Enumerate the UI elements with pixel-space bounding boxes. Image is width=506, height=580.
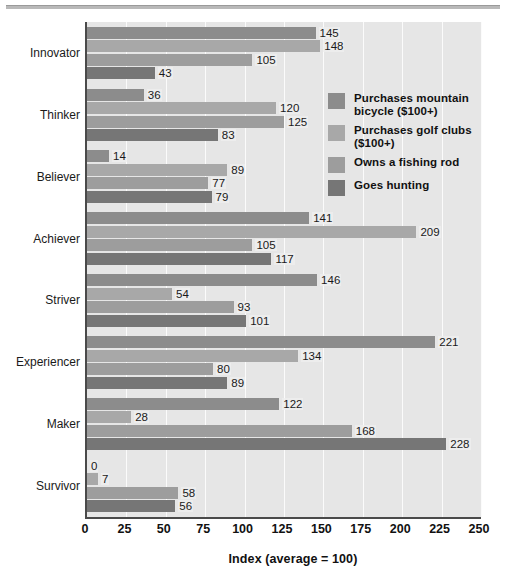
bar: [87, 27, 316, 39]
category-label: Maker: [0, 417, 80, 431]
index-bar-chart: InnovatorThinkerBelieverAchieverStriverE…: [0, 0, 506, 580]
legend-item[interactable]: Purchases mountain bicycle ($100+): [328, 92, 498, 118]
bar-value-label: 54: [175, 288, 190, 300]
legend-swatch-fishing-rod: [328, 157, 345, 173]
bar: [87, 288, 172, 300]
bar: [87, 315, 246, 327]
legend-item-label: Goes hunting: [354, 179, 429, 192]
category-label: Striver: [0, 293, 80, 307]
x-tick-label: 0: [82, 522, 89, 536]
bar: [87, 425, 352, 437]
x-tick-label: 100: [232, 522, 253, 536]
bar-value-label: 56: [178, 500, 193, 512]
bar: [87, 226, 416, 238]
bar-value-label: 77: [211, 177, 226, 189]
bar: [87, 411, 131, 423]
x-axis-title-text: Index (average = 100): [229, 552, 358, 566]
bar-value-label: 228: [449, 438, 470, 450]
bar: [87, 239, 252, 251]
x-tick-label: 125: [272, 522, 293, 536]
bar-value-label: 105: [255, 54, 276, 66]
bar: [87, 336, 435, 348]
legend-swatch-goes-hunting: [328, 180, 345, 196]
bar-value-label: 209: [419, 226, 440, 238]
category-label: Survivor: [0, 479, 80, 493]
bar-value-label: 7: [101, 473, 109, 485]
bar: [87, 350, 298, 362]
bar: [87, 438, 446, 450]
bar: [87, 177, 208, 189]
x-tick-label: 200: [390, 522, 411, 536]
category-label: Thinker: [0, 108, 80, 122]
legend-item-label: Owns a fishing rod: [354, 156, 459, 169]
bar-value-label: 79: [215, 191, 230, 203]
category-label: Believer: [0, 170, 80, 184]
bar: [87, 54, 252, 66]
bar-value-label: 28: [134, 411, 149, 423]
bar-value-label: 80: [216, 363, 231, 375]
bar: [87, 487, 178, 499]
bar: [87, 274, 317, 286]
bar-value-label: 122: [282, 398, 303, 410]
bar: [87, 116, 284, 128]
bar-value-label: 89: [230, 377, 245, 389]
category-label: Achiever: [0, 232, 80, 246]
x-tick-label: 225: [429, 522, 450, 536]
bar-value-label: 83: [221, 129, 236, 141]
bar: [87, 67, 155, 79]
bar: [87, 212, 309, 224]
bar: [87, 377, 227, 389]
category-axis-labels: InnovatorThinkerBelieverAchieverStriverE…: [0, 22, 80, 517]
bar-value-label: 134: [301, 350, 322, 362]
bar-value-label: 0: [90, 460, 98, 472]
bar: [87, 129, 218, 141]
legend-item[interactable]: Goes hunting: [328, 179, 498, 196]
bar-value-label: 93: [237, 301, 252, 313]
category-label: Experiencer: [0, 355, 80, 369]
x-axis-line: [85, 517, 481, 519]
bar: [87, 40, 320, 52]
bar-value-label: 221: [438, 336, 459, 348]
x-tick-label: 250: [469, 522, 490, 536]
legend-swatch-golf-clubs: [328, 125, 345, 141]
legend-item-label: Purchases mountain bicycle ($100+): [354, 92, 498, 118]
chart-legend: Purchases mountain bicycle ($100+)Purcha…: [328, 92, 498, 202]
bar: [87, 363, 213, 375]
bar-value-label: 58: [181, 487, 196, 499]
bar-value-label: 145: [319, 27, 340, 39]
bar-value-label: 148: [323, 40, 344, 52]
bar: [87, 398, 279, 410]
bar: [87, 102, 276, 114]
bar: [87, 253, 271, 265]
legend-swatch-mountain-bicycle: [328, 93, 345, 109]
bar: [87, 301, 234, 313]
legend-item-label: Purchases golf clubs ($100+): [354, 124, 498, 150]
x-tick-label: 75: [196, 522, 210, 536]
bar: [87, 89, 144, 101]
category-label: Innovator: [0, 46, 80, 60]
legend-item[interactable]: Purchases golf clubs ($100+): [328, 124, 498, 150]
bar: [87, 500, 175, 512]
bar-value-label: 146: [320, 274, 341, 286]
bar-value-label: 89: [230, 164, 245, 176]
top-divider-rule: [6, 5, 500, 9]
x-tick-label: 50: [157, 522, 171, 536]
bar: [87, 150, 109, 162]
x-tick-label: 25: [117, 522, 131, 536]
bar-value-label: 105: [255, 239, 276, 251]
bar-value-label: 43: [158, 67, 173, 79]
bar: [87, 164, 227, 176]
bar: [87, 473, 98, 485]
bar-value-label: 14: [112, 150, 127, 162]
legend-item[interactable]: Owns a fishing rod: [328, 156, 498, 173]
x-tick-label: 175: [350, 522, 371, 536]
bar-value-label: 101: [249, 315, 270, 327]
bar-value-label: 117: [274, 253, 294, 265]
bar-value-label: 125: [287, 116, 308, 128]
bar: [87, 191, 212, 203]
x-axis-title: Index (average = 100): [0, 552, 506, 566]
bar-value-label: 168: [355, 425, 376, 437]
bar-value-label: 141: [312, 212, 333, 224]
bar-value-label: 120: [279, 102, 300, 114]
bar-value-label: 36: [147, 89, 162, 101]
